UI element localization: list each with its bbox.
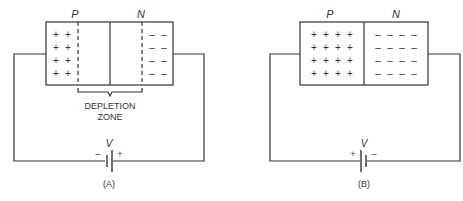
- svg-text:–: –: [161, 29, 167, 40]
- n-region-label-a: N: [137, 8, 145, 20]
- svg-text:+: +: [335, 68, 341, 79]
- svg-text:+: +: [311, 55, 317, 66]
- svg-text:+: +: [347, 42, 353, 53]
- svg-text:+: +: [53, 55, 59, 66]
- svg-text:–: –: [387, 55, 393, 66]
- svg-text:–: –: [375, 42, 381, 53]
- svg-text:+: +: [335, 55, 341, 66]
- svg-text:–: –: [411, 68, 417, 79]
- svg-text:+: +: [53, 68, 59, 79]
- svg-text:+: +: [347, 68, 353, 79]
- svg-text:+: +: [53, 42, 59, 53]
- svg-text:–: –: [149, 29, 155, 40]
- svg-text:+: +: [347, 29, 353, 40]
- n-region-label-b: N: [392, 8, 400, 20]
- p-region-label-b: P: [326, 8, 334, 20]
- voltage-label-a: V: [106, 138, 114, 149]
- svg-text:+: +: [335, 29, 341, 40]
- n-charges-b: – – – – – – – – – – – – – – – –: [375, 29, 417, 79]
- n-charges-a: – – – – – – – –: [149, 29, 167, 79]
- svg-text:+: +: [347, 55, 353, 66]
- svg-text:+: +: [323, 55, 329, 66]
- battery-sign-left-a: –: [95, 149, 100, 159]
- diagram-b: [270, 22, 460, 172]
- svg-text:+: +: [323, 68, 329, 79]
- svg-text:–: –: [149, 68, 155, 79]
- caption-b: (B): [358, 179, 370, 189]
- svg-text:–: –: [375, 68, 381, 79]
- svg-text:–: –: [375, 29, 381, 40]
- depletion-zone-label-line1: DEPLETION: [84, 101, 135, 111]
- svg-text:–: –: [387, 42, 393, 53]
- svg-text:+: +: [65, 29, 71, 40]
- svg-text:–: –: [161, 42, 167, 53]
- svg-text:–: –: [411, 55, 417, 66]
- svg-text:–: –: [375, 55, 381, 66]
- p-region-label-a: P: [71, 8, 79, 20]
- svg-text:–: –: [399, 68, 405, 79]
- svg-text:–: –: [411, 29, 417, 40]
- depletion-zone-label-line2: ZONE: [97, 112, 122, 122]
- svg-text:+: +: [311, 29, 317, 40]
- svg-text:+: +: [335, 42, 341, 53]
- battery-sign-right-a: +: [117, 149, 122, 159]
- svg-text:–: –: [399, 29, 405, 40]
- battery-sign-right-b: –: [371, 149, 376, 159]
- svg-text:+: +: [53, 29, 59, 40]
- diagram-a: [14, 22, 204, 172]
- voltage-label-b: V: [361, 138, 369, 149]
- svg-text:+: +: [323, 42, 329, 53]
- svg-text:+: +: [65, 55, 71, 66]
- p-charges-a: + + + + + + + +: [53, 29, 71, 79]
- svg-text:–: –: [161, 68, 167, 79]
- p-charges-b: + + + + + + + + + + + + + + + +: [311, 29, 353, 79]
- caption-a: (A): [103, 179, 115, 189]
- svg-text:+: +: [65, 42, 71, 53]
- svg-text:–: –: [149, 55, 155, 66]
- depletion-brace: [78, 88, 142, 96]
- svg-text:+: +: [311, 68, 317, 79]
- svg-text:–: –: [149, 42, 155, 53]
- svg-text:–: –: [387, 68, 393, 79]
- svg-text:–: –: [387, 29, 393, 40]
- svg-text:–: –: [399, 42, 405, 53]
- svg-text:+: +: [311, 42, 317, 53]
- svg-text:+: +: [323, 29, 329, 40]
- svg-text:–: –: [411, 42, 417, 53]
- svg-text:–: –: [161, 55, 167, 66]
- pn-junction-figure: P N + + + + + + + + – – – – – – – – DEPL…: [0, 0, 463, 201]
- svg-text:+: +: [65, 68, 71, 79]
- svg-text:–: –: [399, 55, 405, 66]
- battery-sign-left-b: +: [350, 149, 355, 159]
